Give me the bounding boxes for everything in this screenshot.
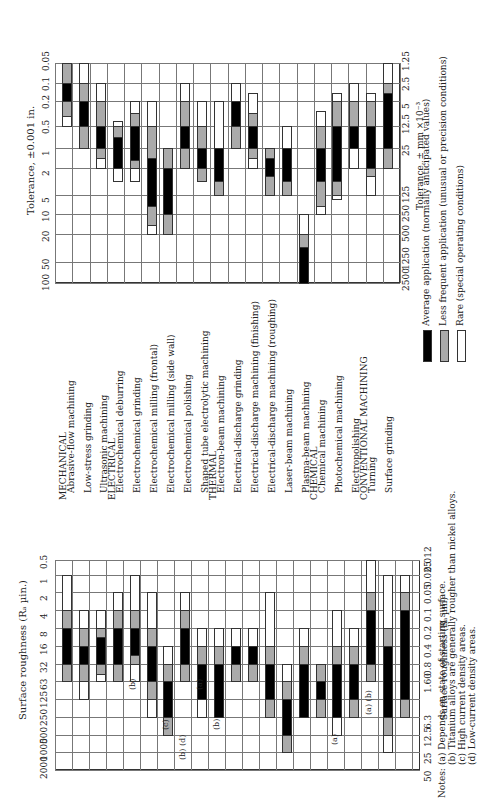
tolerance-bar-segment-avg [282,148,292,182]
surface-bar-segment-less [366,664,376,682]
surface-bar-segment-less [163,664,173,682]
surface-bar-segment-avg [332,664,342,718]
surface-tick-label: 32 [40,662,49,673]
surface-bar-segment-rare [96,610,106,629]
surface-bar-segment-rare [197,628,207,647]
surface-bar-segment-avg [163,681,173,718]
surface-bar-segment-rare [79,681,89,700]
tolerance-column-line [159,63,160,283]
tolerance-column-line [193,63,194,283]
surface-bar-segment-avg [79,646,89,665]
tolerance-bar-segment-rare [96,158,106,169]
tolerance-bar-segment-avg [349,126,359,149]
process-label: Electrochemical milling (side wall) [167,334,176,493]
tolerance-bar-segment-avg [366,126,376,169]
surface-bar-segment-avg [316,681,326,700]
surface-note-marker: (a) (b) [365,690,373,715]
surface-bar-segment-rare [113,592,123,611]
tolerance-bar-segment-avg [163,168,173,215]
tolerance-bar-segment-avg [231,101,241,127]
tolerance-column-line [55,63,56,283]
tolerance-tick-label: 20 [42,231,51,242]
surface-bar-segment-rare [130,575,140,611]
tolerance-column-line [72,63,73,283]
surface-column-line [157,560,158,770]
surface-um-tick-label: 50 [424,771,433,782]
surface-bar-segment-avg [248,646,258,665]
surface-gridline [55,717,420,718]
surface-gridline [55,752,420,753]
tolerance-mm-tick-label: 25 [402,145,411,156]
tolerance-bar-segment-less [130,113,140,127]
surface-column-line [327,560,328,770]
tolerance-tick-label: 5 [42,197,51,203]
surface-bar-segment-less [197,646,207,665]
surface-bar-segment-less [349,699,359,718]
surface-column-line [361,560,362,770]
surface-bar-segment-avg [383,646,393,718]
tolerance-mm-tick-label: 2500 [402,268,411,291]
surface-bar-segment-rare [214,628,224,647]
surface-bar-segment-rare [147,592,157,629]
tolerance-mm-tick-label: 1250 [402,247,411,270]
surface-bar-segment-avg [366,610,376,665]
process-label: Photochemical machining [335,375,344,493]
tolerance-bar-segment-less [366,101,376,127]
surface-bar-segment-avg [400,610,410,700]
tolerance-bar-segment-less [231,126,241,149]
tolerance-bar-segment-rare [383,63,393,84]
surface-bar-segment-rare [96,674,106,682]
surface-tick-label: 250 [40,709,49,726]
tolerance-bar-segment-less [197,126,207,149]
tolerance-bar-segment-avg [113,137,123,169]
surface-bar-segment-avg [96,637,106,665]
tolerance-bar-segment-less [332,181,342,196]
surface-gridline [55,770,420,771]
surface-column-line [106,560,107,770]
process-label: Electrochemical grinding [133,377,142,493]
tolerance-bar-segment-rare [231,83,241,102]
surface-um-tick-label: 0.05 [424,584,433,604]
surface-column-line [276,560,277,770]
tolerance-bar-segment-avg [180,126,190,149]
surface-bar-segment-less [282,681,292,700]
surface-bar-segment-rare [163,646,173,665]
tolerance-bar-segment-rare [214,101,224,149]
surface-bar-segment-rare [231,628,241,647]
tolerance-tick-label: 0.2 [42,95,51,109]
surface-bar-segment-rare [282,664,292,682]
tolerance-bar-segment-rare [147,225,157,235]
surface-bar-segment-avg [214,664,224,718]
tolerance-bar-segment-rare [130,168,140,182]
tolerance-bar-segment-less [316,126,326,149]
note-item: (d) Low-current density areas. [468,626,477,765]
tolerance-gridline [55,283,400,284]
surface-bar-segment-avg [130,628,140,656]
surface-tick-label: 63 [40,679,49,690]
surface-bar-segment-avg [231,646,241,665]
note-item: (a) Depends on state of starting surface… [438,581,447,765]
process-label: Laser-beam machining [285,389,294,493]
tolerance-axis-title: Tolerance, ±0.001 in. [26,106,36,215]
tolerance-tick-label: 10 [42,211,51,222]
surface-note-marker: (b) [129,679,137,690]
surface-bar-segment-rare [180,592,190,611]
surface-bar-segment-rare [383,575,393,629]
surface-bar-segment-less [130,610,140,629]
tolerance-bar-segment-avg [197,148,207,169]
legend-label-rare: Rare (special operating conditions) [456,165,465,326]
process-label: Electrochemical milling (frontal) [150,344,159,493]
tolerance-bar-segment-less [214,181,224,196]
surface-bar-segment-less [113,610,123,629]
surface-column-line [72,560,73,770]
surface-column-line [225,560,226,770]
tolerance-bar-segment-less [265,176,275,196]
surface-bar-segment-rare [332,610,342,647]
tolerance-bar-segment-rare [349,148,359,169]
tolerance-mm-tick-label: 5 [402,103,411,109]
surface-bar-segment-avg [349,664,359,700]
surface-bar-segment-less [79,628,89,647]
surface-bar-segment-less [62,610,72,629]
tolerance-bar-segment-less [147,126,157,159]
surface-column-line [344,560,345,770]
